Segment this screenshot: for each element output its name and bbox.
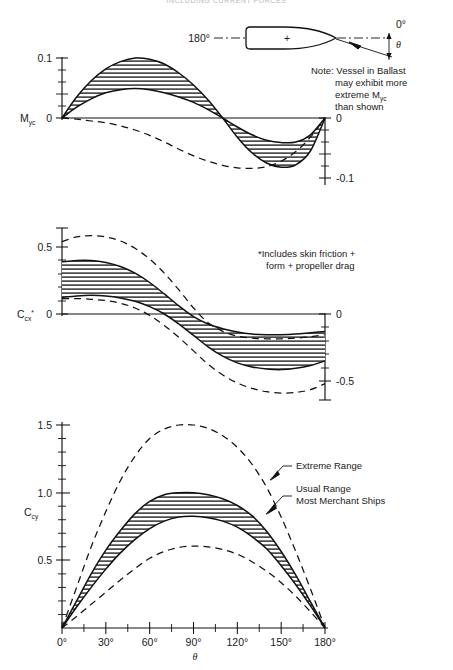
ballast-note-line-1: Note: Vessel in Ballast bbox=[311, 65, 406, 76]
chart-ccy-xtick-label: 90° bbox=[186, 636, 202, 648]
chart-ccy-ytick-label: 1.5 bbox=[37, 419, 52, 431]
chart-myc: Myc 0.1 0 0 -0.1 bbox=[20, 52, 354, 185]
chart-ccy-ylabel: Ccy bbox=[24, 506, 39, 521]
ballast-note-line-4: than shown bbox=[335, 101, 384, 112]
bow-angle-label: 0° bbox=[396, 18, 406, 30]
chart-myc-ytick-label: 0 bbox=[46, 112, 52, 124]
chart-ccy-extreme-upper-curve bbox=[62, 425, 325, 628]
drag-note-line-2: form + propeller drag bbox=[266, 260, 354, 271]
chart-ccy-ytick-label: 1.0 bbox=[37, 487, 52, 499]
usual-range-label-line-1: Usual Range bbox=[296, 483, 351, 494]
chart-myc-ylabel: Myc bbox=[20, 112, 36, 127]
chart-ccx-ytick-label: 0.5 bbox=[37, 241, 52, 253]
chart-ccy-xtick-label: 30° bbox=[98, 636, 114, 648]
chart-ccx-band bbox=[62, 260, 325, 369]
chart-myc-ytick-label: -0.1 bbox=[336, 172, 354, 184]
hull-outline bbox=[246, 27, 336, 49]
extreme-range-arrow-icon bbox=[270, 471, 280, 482]
chart-ccy-band bbox=[62, 492, 325, 628]
chart-ccy: Ccy 1.5 1.0 0.5 0°30°60°90°120°150°180° … bbox=[24, 419, 385, 662]
chart-ccy-xtick-label: 120° bbox=[226, 636, 248, 648]
angle-arrow-down-icon bbox=[386, 53, 391, 59]
chart-myc-ytick-label: 0.1 bbox=[37, 52, 52, 64]
drag-note-line-1: *Includes skin friction + bbox=[258, 248, 356, 259]
theta-angle-label: θ bbox=[396, 39, 401, 50]
stern-angle-label: 180° bbox=[188, 32, 210, 44]
chart-ccy-xtick-label: 60° bbox=[142, 636, 158, 648]
figure-page: INCLUDING CURRENT FORCES + 0° bbox=[0, 0, 453, 670]
chart-ccy-xtick-label: 150° bbox=[270, 636, 292, 648]
ballast-note-line-2: may exhibit more bbox=[335, 77, 407, 88]
chart-ccy-xlabels-group: 0°30°60°90°120°150°180° bbox=[57, 636, 336, 648]
chart-ccy-xtick-label: 0° bbox=[57, 636, 67, 648]
angle-arrow-up-icon bbox=[386, 33, 391, 39]
chart-ccy-xtick-label: 180° bbox=[314, 636, 336, 648]
hull-center-mark: + bbox=[284, 32, 290, 44]
usual-range-label-line-2: Most Merchant Ships bbox=[296, 495, 385, 506]
drag-note: *Includes skin friction + form + propell… bbox=[258, 248, 356, 271]
ballast-note: Note: Vessel in Ballast may exhibit more… bbox=[311, 65, 407, 112]
chart-ccy-xlabel: θ bbox=[193, 651, 198, 662]
chart-ccx-ytick-label: 0 bbox=[46, 308, 52, 320]
chart-ccy-plot bbox=[62, 425, 325, 628]
chart-ccx-ytick-label: -0.5 bbox=[336, 375, 354, 387]
vessel-heading-diagram: + 0° θ 180° bbox=[188, 18, 406, 60]
figure-plate: + 0° θ 180° Note: Vessel in Ballast may … bbox=[0, 0, 453, 670]
chart-myc-band bbox=[62, 58, 325, 167]
chart-myc-plot bbox=[62, 58, 325, 169]
chart-ccy-ytick-label: 0.5 bbox=[37, 554, 52, 566]
chart-myc-ytick-label: 0 bbox=[336, 112, 342, 124]
current-arrow-icon bbox=[349, 42, 361, 49]
current-vector-line bbox=[336, 39, 392, 57]
chart-ccy-callouts: Extreme Range Usual Range Most Merchant … bbox=[266, 460, 385, 515]
extreme-range-label: Extreme Range bbox=[296, 460, 362, 471]
chart-ccx-ylabel: Ccx* bbox=[17, 308, 34, 322]
chart-ccx-ytick-label: 0 bbox=[336, 308, 342, 320]
